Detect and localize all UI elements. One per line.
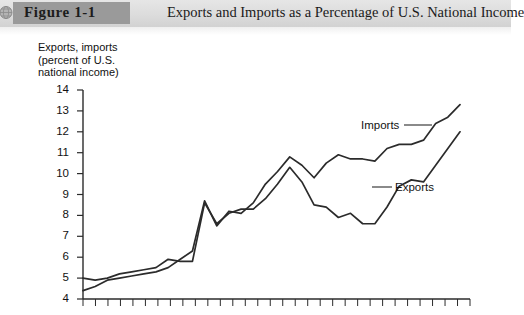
- header-band-shadow: [0, 27, 511, 35]
- y-axis-tick-label: 7: [43, 229, 69, 241]
- series-lines: [83, 105, 460, 291]
- figure-title: Exports and Imports as a Percentage of U…: [167, 4, 524, 21]
- y-axis-tick-label: 8: [43, 208, 69, 220]
- y-axis-tick-label: 13: [43, 104, 69, 116]
- series-line-exports: [83, 132, 460, 280]
- series-label-exports: Exports: [395, 181, 434, 193]
- series-line-imports: [83, 105, 460, 291]
- figure-number-label: Figure 1-1: [24, 4, 96, 21]
- y-axis-tick-label: 9: [43, 188, 69, 200]
- y-axis-tick-label: 4: [43, 292, 69, 304]
- y-axis-tick-label: 12: [43, 125, 69, 137]
- y-axis-ticks: [77, 90, 83, 299]
- globe-icon: [0, 5, 15, 20]
- y-axis-tick-label: 14: [43, 83, 69, 95]
- y-axis-tick-label: 6: [43, 250, 69, 262]
- annotation-leader-lines: [372, 125, 432, 187]
- x-axis-ticks: [83, 299, 470, 306]
- y-axis-tick-label: 11: [43, 146, 69, 158]
- chart-plot: [0, 35, 511, 315]
- y-axis-tick-label: 5: [43, 271, 69, 283]
- chart-area: Exports, imports (percent of U.S. nation…: [0, 35, 511, 315]
- y-axis-tick-label: 10: [43, 167, 69, 179]
- series-label-imports: Imports: [361, 119, 399, 131]
